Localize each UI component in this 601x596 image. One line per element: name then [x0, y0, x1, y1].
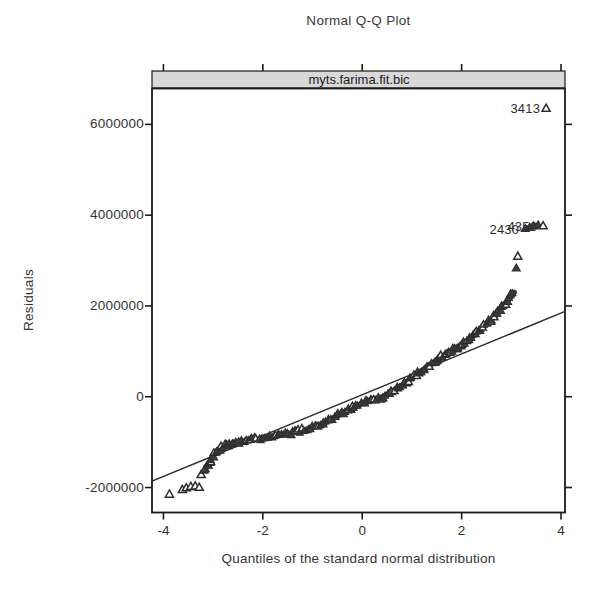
outlier-label: 3413	[510, 101, 540, 116]
x-tick-label: 2	[442, 523, 482, 538]
lower-tail-point	[165, 490, 173, 497]
panel-strip-label: myts.farima.fit.bic	[153, 71, 565, 88]
upper-tail-point	[512, 264, 520, 271]
upper-tail-point	[514, 252, 522, 259]
y-tick-label: 4000000	[52, 207, 144, 222]
upper-tail-point	[539, 222, 547, 229]
y-tick-label: 6000000	[52, 116, 144, 131]
y-tick-label: 2000000	[52, 298, 144, 313]
x-tick-label: 0	[342, 523, 382, 538]
x-tick-label: -2	[243, 523, 283, 538]
qq-plot-figure: Normal Q-Q Plot myts.farima.fit.bic Resi…	[0, 0, 601, 596]
x-tick-label: 4	[541, 523, 581, 538]
x-axis-label: Quantiles of the standard normal distrib…	[152, 551, 565, 566]
x-tick-label: -4	[143, 523, 183, 538]
outlier-label: 2430	[490, 221, 520, 236]
y-tick-label: 0	[52, 389, 144, 404]
y-axis-label: Residuals	[21, 269, 36, 331]
y-tick-label: -2000000	[52, 480, 144, 495]
upper-tail-point	[542, 104, 550, 111]
